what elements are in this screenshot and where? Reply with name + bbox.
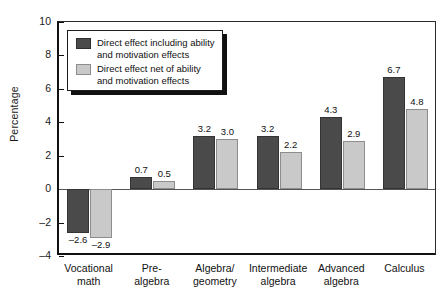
bar-0-2 (193, 136, 215, 189)
y-tick-label: –4 (25, 249, 51, 261)
y-tick-label: –2 (25, 216, 51, 228)
y-tick-label: 2 (25, 149, 51, 161)
y-tick-label: 8 (25, 48, 51, 60)
bar-1-2 (216, 139, 238, 189)
category-label: Algebra/geometry (193, 262, 237, 287)
category-label-line: Calculus (384, 262, 424, 275)
y-tick-mark (59, 256, 64, 257)
category-label: Intermediatealgebra (249, 262, 307, 287)
category-label-line: algebra (134, 275, 169, 288)
category-label: Vocationalmath (64, 262, 112, 287)
category-label-line: Pre- (134, 262, 169, 275)
legend-label: Direct effect including abilityand motiv… (97, 37, 215, 60)
bar-chart: Percentage –2.6–2.90.70.53.23.03.22.24.3… (0, 0, 441, 306)
bar-value-label: 0.5 (158, 168, 171, 179)
category-label: Calculus (384, 262, 424, 275)
bar-value-label: 4.8 (410, 96, 423, 107)
category-label-line: Algebra/ (193, 262, 237, 275)
bar-value-label: 2.2 (284, 139, 297, 150)
bar-value-label: 3.2 (261, 123, 274, 134)
bar-0-3 (257, 136, 279, 189)
chart-legend: Direct effect including abilityand motiv… (67, 30, 223, 91)
y-tick-label: 10 (25, 15, 51, 27)
bar-1-5 (406, 109, 428, 189)
bar-0-4 (320, 117, 342, 189)
category-label: Advancedalgebra (318, 262, 365, 287)
y-tick-mark (59, 122, 64, 123)
bar-0-5 (383, 77, 405, 189)
category-label-line: Vocational (64, 262, 112, 275)
bar-value-label: 6.7 (387, 64, 400, 75)
y-tick-label: 4 (25, 115, 51, 127)
legend-label-line: Direct effect net of ability (97, 63, 201, 75)
bar-value-label: 3.2 (198, 123, 211, 134)
legend-label: Direct effect net of abilityand motivati… (97, 63, 201, 86)
bar-value-label: 0.7 (135, 164, 148, 175)
bar-value-label: –2.6 (69, 234, 88, 245)
y-axis-title: Percentage (8, 69, 20, 159)
bar-1-0 (90, 189, 112, 237)
y-tick-mark (59, 156, 64, 157)
y-tick-mark (59, 223, 64, 224)
legend-item-1[interactable]: Direct effect net of abilityand motivati… (76, 63, 215, 86)
legend-swatch-icon (76, 64, 91, 75)
zero-baseline (59, 189, 435, 190)
legend-swatch-icon (76, 38, 91, 49)
bar-value-label: 3.0 (221, 126, 234, 137)
y-tick-mark (59, 55, 64, 56)
legend-item-0[interactable]: Direct effect including abilityand motiv… (76, 37, 215, 60)
legend-label-line: and motivation effects (97, 75, 201, 87)
category-label-line: math (64, 275, 112, 288)
bar-value-label: 2.9 (347, 128, 360, 139)
y-tick-label: 6 (25, 82, 51, 94)
bar-value-label: –2.9 (92, 239, 111, 250)
bar-0-0 (67, 189, 89, 232)
y-tick-label: 0 (25, 182, 51, 194)
category-label-line: algebra (318, 275, 365, 288)
category-label-line: Advanced (318, 262, 365, 275)
bar-value-label: 4.3 (324, 104, 337, 115)
category-label-line: Intermediate (249, 262, 307, 275)
bar-1-3 (280, 152, 302, 189)
y-tick-mark (59, 89, 64, 90)
y-tick-mark (59, 22, 64, 23)
category-label-line: algebra (249, 275, 307, 288)
legend-label-line: Direct effect including ability (97, 37, 215, 49)
legend-label-line: and motivation effects (97, 49, 215, 61)
bar-1-1 (153, 181, 175, 189)
category-label-line: geometry (193, 275, 237, 288)
category-label: Pre-algebra (134, 262, 169, 287)
bar-0-1 (130, 177, 152, 189)
bar-1-4 (343, 141, 365, 189)
